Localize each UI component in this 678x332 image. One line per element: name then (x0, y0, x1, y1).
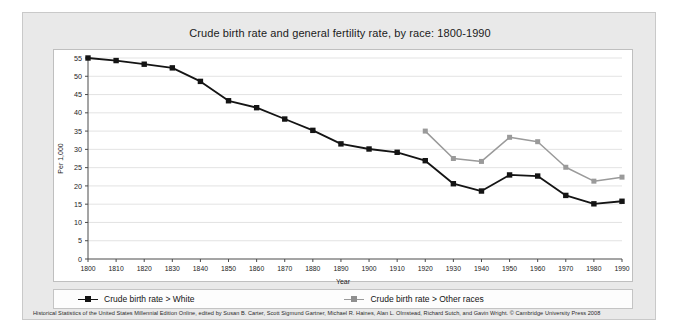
legend-item-white[interactable]: Crude birth rate > White (78, 294, 194, 304)
svg-text:35: 35 (74, 127, 82, 136)
svg-text:5: 5 (78, 236, 82, 245)
source-citation: Historical Statistics of the United Stat… (33, 309, 649, 318)
svg-text:1940: 1940 (474, 265, 489, 272)
svg-text:1950: 1950 (502, 265, 517, 272)
svg-text:50: 50 (74, 72, 82, 81)
svg-text:10: 10 (74, 218, 82, 227)
svg-text:1850: 1850 (221, 265, 236, 272)
svg-text:1990: 1990 (614, 265, 629, 272)
svg-text:0: 0 (78, 255, 82, 264)
svg-text:25: 25 (74, 163, 82, 172)
svg-text:1880: 1880 (305, 265, 320, 272)
chart-page: Crude birth rate and general fertility r… (0, 0, 678, 332)
svg-text:1960: 1960 (530, 265, 545, 272)
svg-text:1910: 1910 (390, 265, 405, 272)
x-axis: 1800181018201830184018501860187018801890… (80, 259, 629, 272)
plot-area: 0510152025303540455055 18001810182018301… (53, 49, 633, 282)
legend-label-other-races: Crude birth rate > Other races (370, 294, 483, 304)
svg-text:1870: 1870 (277, 265, 292, 272)
svg-text:20: 20 (74, 182, 82, 191)
chart-title: Crude birth rate and general fertility r… (23, 27, 657, 39)
svg-text:1800: 1800 (80, 265, 95, 272)
legend-marker-white-icon (78, 295, 98, 304)
svg-text:40: 40 (74, 108, 82, 117)
svg-text:1830: 1830 (165, 265, 180, 272)
y-axis-title: Per 1,000 (57, 143, 64, 173)
svg-text:1860: 1860 (249, 265, 264, 272)
chart-panel: Crude birth rate and general fertility r… (22, 12, 656, 320)
x-axis-label: Year (53, 278, 633, 285)
svg-text:1900: 1900 (361, 265, 376, 272)
chart-legend: Crude birth rate > White Crude birth rat… (53, 289, 633, 309)
legend-label-white: Crude birth rate > White (104, 294, 194, 304)
svg-text:1890: 1890 (333, 265, 348, 272)
svg-text:1980: 1980 (586, 265, 601, 272)
y-axis: 0510152025303540455055 (74, 54, 88, 264)
svg-text:1970: 1970 (558, 265, 573, 272)
legend-item-other-races[interactable]: Crude birth rate > Other races (344, 294, 483, 304)
grid-lines (88, 58, 622, 241)
svg-text:30: 30 (74, 145, 82, 154)
svg-text:1930: 1930 (446, 265, 461, 272)
svg-text:1920: 1920 (418, 265, 433, 272)
legend-marker-other-races-icon (344, 295, 364, 304)
svg-text:1840: 1840 (193, 265, 208, 272)
svg-text:45: 45 (74, 90, 82, 99)
plot-svg: 0510152025303540455055 18001810182018301… (54, 50, 632, 281)
svg-text:15: 15 (74, 200, 82, 209)
svg-text:55: 55 (74, 54, 82, 63)
svg-text:1820: 1820 (137, 265, 152, 272)
svg-text:1810: 1810 (109, 265, 124, 272)
svg-text:Per 1,000: Per 1,000 (57, 143, 64, 173)
